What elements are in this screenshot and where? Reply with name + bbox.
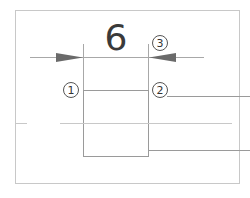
dimension-diagram: 6 3 1 2 (0, 0, 250, 198)
callout-3: 3 (153, 36, 168, 51)
svg-text:1: 1 (68, 84, 75, 97)
svg-text:3: 3 (157, 37, 164, 50)
callout-1: 1 (64, 83, 79, 98)
svg-text:2: 2 (157, 84, 164, 97)
callout-2: 2 (153, 83, 168, 98)
left-arrow-icon (56, 53, 83, 62)
right-arrow-icon (149, 53, 176, 62)
dimension-value: 6 (105, 17, 128, 58)
